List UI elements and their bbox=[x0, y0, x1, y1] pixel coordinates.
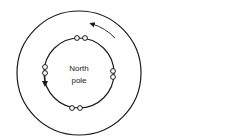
bead bbox=[83, 36, 88, 41]
outer-rotation-arrow-icon bbox=[92, 24, 115, 38]
bead bbox=[111, 75, 116, 80]
outer-circle bbox=[17, 11, 141, 135]
bead bbox=[43, 65, 48, 70]
bead bbox=[43, 71, 48, 76]
center-label-north: North bbox=[69, 65, 89, 73]
inner-circle bbox=[44, 38, 114, 108]
bead bbox=[78, 106, 83, 111]
center-label-pole: pole bbox=[71, 77, 86, 85]
beads bbox=[43, 36, 116, 111]
bead bbox=[75, 36, 80, 41]
north-pole-diagram bbox=[0, 0, 235, 140]
bead bbox=[70, 106, 75, 111]
bead bbox=[111, 69, 116, 74]
